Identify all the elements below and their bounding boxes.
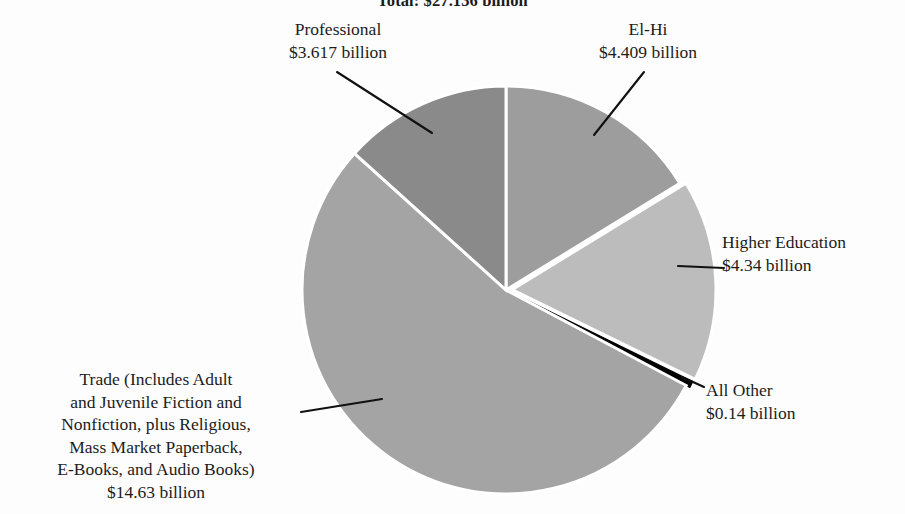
label-trade-line5: E-Books, and Audio Books) (0, 458, 312, 481)
label-higher-education-name: Higher Education (722, 231, 905, 254)
leader-line-professional (337, 72, 432, 133)
label-professional-name: Professional (243, 18, 433, 41)
label-elhi: El-Hi $4.409 billion (548, 18, 748, 63)
label-elhi-name: El-Hi (548, 18, 748, 41)
chart-title: Total: $27.136 billion (0, 0, 905, 11)
label-trade-line1: Trade (Includes Adult (0, 368, 312, 391)
label-elhi-value: $4.409 billion (548, 41, 748, 64)
label-higher-education: Higher Education $4.34 billion (722, 231, 905, 276)
label-all-other-name: All Other (706, 379, 876, 402)
label-trade-line2: and Juvenile Fiction and (0, 391, 312, 414)
label-all-other-value: $0.14 billion (706, 402, 876, 425)
pie-chart-figure: Total: $27.136 billion Professional $3.6… (0, 0, 905, 514)
pie-slices (302, 86, 716, 494)
label-trade-line4: Mass Market Paperback, (0, 436, 312, 459)
label-professional: Professional $3.617 billion (243, 18, 433, 63)
label-professional-value: $3.617 billion (243, 41, 433, 64)
label-trade-line3: Nonfiction, plus Religious, (0, 413, 312, 436)
label-higher-education-value: $4.34 billion (722, 254, 905, 277)
label-all-other: All Other $0.14 billion (706, 379, 876, 424)
label-trade-value: $14.63 billion (0, 481, 312, 504)
label-trade: Trade (Includes Adult and Juvenile Ficti… (0, 368, 312, 503)
